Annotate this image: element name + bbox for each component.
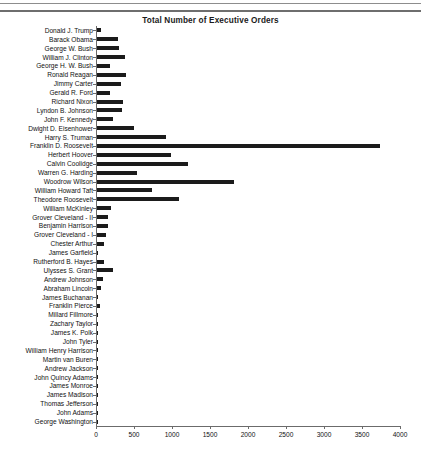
- bar: [97, 366, 98, 370]
- y-axis-label: Theodore Roosevelt: [0, 196, 93, 203]
- x-axis-tick: [286, 426, 287, 429]
- y-axis-label: Ronald Reagan: [0, 71, 93, 78]
- y-axis-label: Lyndon B. Johnson: [0, 107, 93, 114]
- y-axis-label: Grover Cleveland - II: [0, 214, 93, 221]
- bar: [97, 348, 98, 352]
- bar: [97, 268, 113, 272]
- x-axis-tick-label: 4000: [393, 431, 408, 438]
- y-axis-tick: [93, 173, 96, 174]
- y-axis-tick: [93, 288, 96, 289]
- y-axis-tick: [93, 119, 96, 120]
- y-axis-tick: [93, 324, 96, 325]
- bar: [97, 313, 98, 317]
- y-axis-tick: [93, 368, 96, 369]
- y-axis-label: Abraham Lincoln: [0, 285, 93, 292]
- bar: [97, 188, 152, 192]
- y-axis-tick: [93, 253, 96, 254]
- y-axis-tick: [93, 306, 96, 307]
- y-axis-tick: [93, 395, 96, 396]
- bar: [97, 197, 179, 201]
- bar: [97, 126, 134, 130]
- bar: [97, 100, 123, 104]
- bar: [97, 46, 119, 50]
- y-axis-tick: [93, 93, 96, 94]
- bar: [97, 411, 98, 415]
- bar: [97, 171, 137, 175]
- y-axis-label: James Buchanan: [0, 294, 93, 301]
- x-axis-tick: [172, 426, 173, 429]
- x-axis-tick-label: 1500: [203, 431, 218, 438]
- x-axis-tick-label: 0: [94, 431, 98, 438]
- x-axis-tick: [96, 426, 97, 429]
- y-axis-label: Millard Fillmore: [0, 311, 93, 318]
- bar: [97, 144, 380, 148]
- y-axis-tick: [93, 262, 96, 263]
- y-axis-label: Barack Obama: [0, 36, 93, 43]
- bar: [97, 402, 98, 406]
- y-axis-tick: [93, 208, 96, 209]
- x-axis-tick: [324, 426, 325, 429]
- x-axis-tick: [134, 426, 135, 429]
- bar: [97, 420, 98, 424]
- y-axis-label: James Monroe: [0, 382, 93, 389]
- y-axis-tick: [93, 226, 96, 227]
- chart-title: Total Number of Executive Orders: [0, 16, 421, 25]
- y-axis-label: William J. Clinton: [0, 54, 93, 61]
- y-axis-label: Gerald R. Ford: [0, 89, 93, 96]
- y-axis-label: Andrew Jackson: [0, 365, 93, 372]
- y-axis-label: Dwight D. Eisenhower: [0, 125, 93, 132]
- bar: [97, 117, 113, 121]
- y-axis-label: Franklin Pierce: [0, 302, 93, 309]
- x-axis-tick-label: 1000: [165, 431, 180, 438]
- y-axis-tick: [93, 66, 96, 67]
- y-axis-label: Zachary Taylor: [0, 320, 93, 327]
- y-axis-tick: [93, 182, 96, 183]
- y-axis-tick: [93, 75, 96, 76]
- bar: [97, 73, 126, 77]
- y-axis-tick: [93, 350, 96, 351]
- y-axis-tick: [93, 39, 96, 40]
- x-axis-tick-label: 2000: [241, 431, 256, 438]
- y-axis-label: George W. Bush: [0, 45, 93, 52]
- x-axis-tick: [400, 426, 401, 429]
- y-axis-label: William McKinley: [0, 205, 93, 212]
- bar: [97, 135, 166, 139]
- y-axis-tick: [93, 164, 96, 165]
- y-axis-tick: [93, 30, 96, 31]
- y-axis-label: William Henry Harrison: [0, 347, 93, 354]
- y-axis-tick: [93, 128, 96, 129]
- bar: [97, 108, 122, 112]
- x-axis-tick: [248, 426, 249, 429]
- bar: [97, 153, 171, 157]
- y-axis-label: Rutherford B. Hayes: [0, 258, 93, 265]
- y-axis-label: John F. Kennedy: [0, 116, 93, 123]
- chart-page: Total Number of Executive Orders Donald …: [0, 0, 421, 468]
- y-axis-label: Harry S. Truman: [0, 134, 93, 141]
- page-rule-top: [0, 3, 421, 4]
- y-axis-label: James K. Polk: [0, 329, 93, 336]
- x-axis-tick-label: 2500: [279, 431, 294, 438]
- y-axis-tick: [93, 333, 96, 334]
- bar: [97, 82, 121, 86]
- y-axis-label: John Tyler: [0, 338, 93, 345]
- x-axis-tick-label: 500: [128, 431, 139, 438]
- y-axis-tick: [93, 146, 96, 147]
- y-axis-label: Chester Arthur: [0, 240, 93, 247]
- y-axis-tick: [93, 413, 96, 414]
- bar: [97, 91, 110, 95]
- y-axis-tick: [93, 190, 96, 191]
- y-axis-label: Woodrow Wilson: [0, 178, 93, 185]
- y-axis-label: John Quincy Adams: [0, 374, 93, 381]
- y-axis-tick: [93, 199, 96, 200]
- y-axis-tick: [93, 297, 96, 298]
- bar: [97, 206, 111, 210]
- y-axis-tick: [93, 342, 96, 343]
- y-axis-tick: [93, 377, 96, 378]
- bar: [97, 233, 106, 237]
- y-axis-label: Donald J. Trump: [0, 27, 93, 34]
- bar: [97, 393, 98, 397]
- y-axis-tick: [93, 137, 96, 138]
- bar: [97, 375, 98, 379]
- y-axis-label: Thomas Jefferson: [0, 400, 93, 407]
- y-axis-label: George Washington: [0, 418, 93, 425]
